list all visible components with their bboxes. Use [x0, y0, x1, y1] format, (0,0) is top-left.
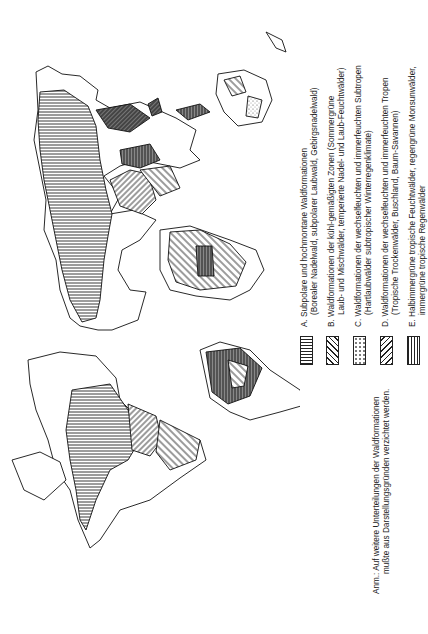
legend-b-line2: Laub- und Mischwälder, temperierte Nadel…	[337, 67, 347, 327]
legend-swatch-e	[407, 336, 420, 365]
legend-item-e: E. Halbimmergrüne tropische Feuchtwälder…	[408, 66, 427, 327]
legend-swatch-d	[380, 336, 393, 365]
legend-b-line1: B. Waldformationen der kühl-gemäßigten Z…	[327, 67, 337, 327]
indonesia-islands	[176, 104, 210, 120]
legend-c-line1: C. Waldformationen der wechselfeuchten u…	[354, 65, 364, 327]
world-forest-map	[0, 0, 300, 634]
legend-a-line2: (Borealer Nadelwald, subpolarer Laubwald…	[310, 87, 320, 327]
legend-e-line1: E. Halbimmergrüne tropische Feuchtwälder…	[408, 66, 418, 327]
africa-rainforest	[196, 246, 214, 276]
legend-swatch-a	[300, 336, 313, 365]
legend-item-b: B. Waldformationen der kühl-gemäßigten Z…	[327, 67, 346, 327]
australia-outline	[216, 70, 272, 126]
legend-swatch-b	[326, 336, 339, 365]
note-line2: mußte aus Darstellungsgründen verzichtet…	[382, 389, 392, 594]
legend-a-line1: A. Subpolare und hochmontane Waldformati…	[300, 87, 310, 327]
legend-d-line1: D. Waldformationen der wechselfeuchten u…	[381, 77, 391, 327]
map-note: Anm.: Auf weitere Unterteilungen der Wal…	[372, 389, 391, 594]
legend-item-a: A. Subpolare und hochmontane Waldformati…	[300, 87, 319, 327]
legend-d-line2: (Tropische Trockenwälder, Buschland, Bau…	[391, 77, 401, 327]
note-line1: Anm.: Auf weitere Unterteilungen der Wal…	[372, 389, 382, 594]
legend-c-line2: (Hartlaubwälder subtropischer Winterrege…	[364, 65, 374, 327]
legend-swatch-c	[353, 336, 366, 365]
legend-e-line2: immergrüne tropische Regenwälder	[418, 66, 428, 327]
legend-item-c: C. Waldformationen der wechselfeuchten u…	[354, 65, 373, 327]
legend-item-d: D. Waldformationen der wechselfeuchten u…	[381, 77, 400, 327]
new-zealand	[266, 32, 286, 52]
